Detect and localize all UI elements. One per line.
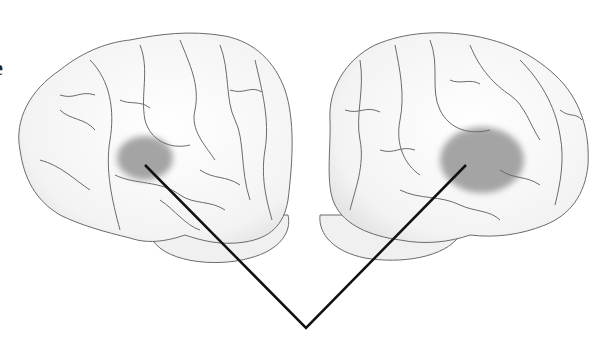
- right-brain: [320, 33, 588, 260]
- brain-diagram: e: [0, 0, 607, 337]
- diagram-canvas: [0, 0, 607, 337]
- left-brain: [19, 33, 292, 263]
